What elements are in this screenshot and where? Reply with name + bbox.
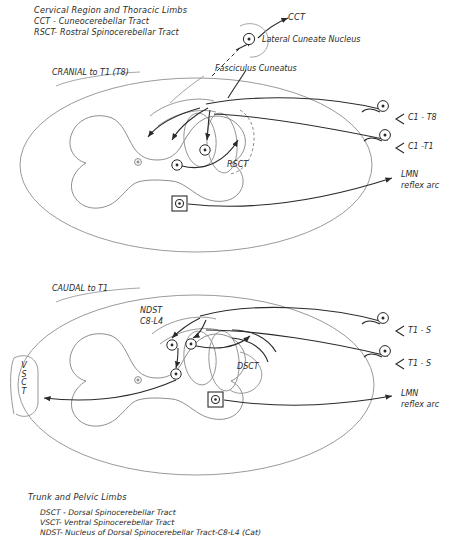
top-lmn-label-line1: LMN — [401, 170, 418, 179]
top-lmn-reflex-arc — [188, 178, 392, 206]
bottom-dorsal-root-ganglia — [378, 313, 391, 357]
ndst-label: NDST C8-L4 — [140, 306, 163, 328]
bottom-interneurons — [167, 339, 196, 379]
cct-label: CCT — [288, 12, 305, 23]
vsct-label: V S C T — [18, 362, 30, 397]
lateral-cuneate-nucleus-marker — [243, 33, 254, 44]
bottom-lmn-label: LMN reflex arc — [401, 389, 439, 411]
top-right-label-c1-t8: C1 - T8 — [408, 113, 437, 123]
top-motor-neuron — [172, 196, 187, 211]
dsct-label: DSCT — [237, 362, 259, 372]
fasciculus-cuneatus-label: Fasciculus Cuneatus — [215, 64, 297, 74]
top-section-label: CRANIAL to T1 (T8) — [52, 68, 129, 78]
top-right-label-c1-t1: C1 -T1 — [408, 142, 434, 152]
top-peripheral-endings — [396, 114, 404, 153]
legend-bottom-item-ndst: NDST- Nucleus of Dorsal Spinocerebellar … — [40, 528, 261, 537]
bottom-section-label: CAUDAL to T1 — [52, 284, 108, 294]
figure-title-top: Cervical Region and Thoracic Limbs — [34, 5, 187, 15]
top-dorsal-root-ganglia — [378, 101, 391, 141]
bottom-cord-outline — [18, 295, 374, 475]
figure-page: Cervical Region and Thoracic Limbs CCT -… — [0, 0, 454, 540]
top-internal-projections — [148, 70, 246, 168]
bottom-lmn-label-line2: reflex arc — [401, 400, 439, 409]
vsct-pathway — [44, 380, 176, 400]
cct-pathway — [236, 18, 288, 50]
bottom-right-label-t1-s-1: T1 - S — [408, 326, 431, 336]
top-afferent-fibers — [206, 98, 388, 141]
rsct-label: RSCT — [227, 160, 248, 170]
spinocerebellar-tract-diagram — [0, 0, 454, 540]
legend-top-item-cct: CCT - Cuneocerebellar Tract — [34, 17, 149, 27]
ndst-label-line2: C8-L4 — [140, 317, 163, 326]
legend-bottom-item-dsct: DSCT - Dorsal Spinocerebellar Tract — [40, 508, 176, 517]
bottom-peripheral-endings — [396, 326, 404, 369]
lateral-cuneate-nucleus-label: Lateral Cuneate Nucleus — [262, 35, 360, 45]
bottom-lmn-label-line1: LMN — [401, 389, 418, 398]
ndst-label-line1: NDST — [140, 306, 162, 315]
top-grey-matter — [70, 116, 245, 208]
bottom-right-label-t1-s-2: T1 - S — [408, 359, 431, 369]
top-lmn-label-line2: reflex arc — [401, 181, 439, 190]
vsct-letter-t: T — [18, 388, 30, 397]
section-label-leaders — [56, 72, 140, 302]
bottom-lmn-reflex-arc — [224, 396, 392, 405]
top-lmn-label: LMN reflex arc — [401, 170, 439, 192]
figure-title-bottom: Trunk and Pelvic Limbs — [28, 492, 127, 502]
bottom-motor-neuron — [208, 392, 223, 407]
bottom-afferent-fibers — [200, 307, 388, 357]
legend-top-item-rsct: RSCT- Rostral Spinocerebellar Tract — [34, 28, 179, 38]
legend-bottom-item-vsct: VSCT- Ventral Spinocerebellar Tract — [40, 518, 174, 527]
